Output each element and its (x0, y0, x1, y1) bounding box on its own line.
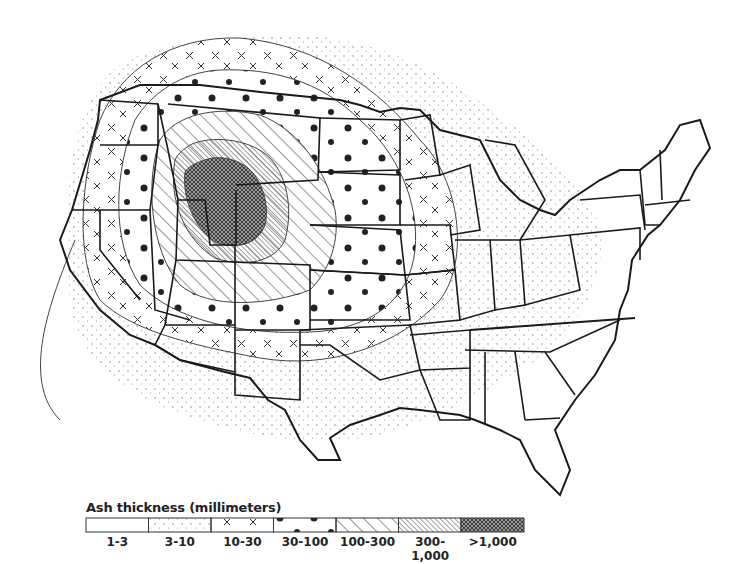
legend-label-30-100: 30-100 (274, 535, 337, 563)
ash-zones (41, 35, 602, 441)
legend-label-10-30: 10-30 (211, 535, 274, 563)
legend-label-300-1000: 300-1,000 (399, 535, 462, 563)
legend-label-1-3: 1-3 (86, 535, 149, 563)
legend-labels: 1-3 3-10 10-30 30-100 100-300 300-1,000 … (86, 535, 524, 563)
legend-label-over-1000: >1,000 (461, 535, 524, 563)
legend-label-3-10: 3-10 (149, 535, 212, 563)
legend-label-100-300: 100-300 (336, 535, 399, 563)
legend-swatches (86, 518, 524, 532)
legend-title: Ash thickness (millimeters) (86, 500, 281, 515)
ash-thickness-map (0, 0, 742, 564)
